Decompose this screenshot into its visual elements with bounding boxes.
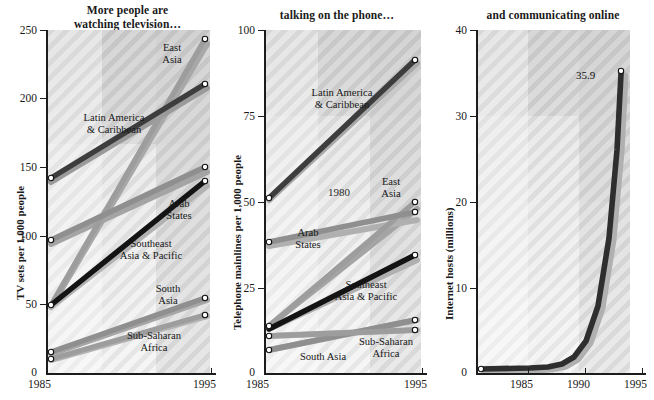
series-label-arab-states-tv: ArabStates [152,198,206,223]
xtick-tv-1995 [211,368,212,374]
yticklabel-tv-200: 200 [6,93,37,105]
yticklabel-phone-50: 50 [226,197,255,209]
xtick-phone-1995 [422,368,423,374]
inline-year-label-1980: 1980 [328,186,350,198]
ytick-tv-100 [40,236,47,237]
yticklabel-tv-0: 0 [6,367,37,379]
yticklabel-internet-40: 40 [438,25,467,37]
xtick-internet-1995 [642,368,643,374]
panel-internet: and communicating online Internet hosts … [434,0,654,400]
figure-root: More people are watching television… TV … [0,0,654,400]
series-label-south-asia-tv: SouthAsia [140,283,196,308]
yticklabel-tv-100: 100 [6,231,37,243]
yticklabel-phone-25: 25 [226,283,255,295]
panel-internet-ylabel: Internet hosts (millions) [443,208,455,320]
panel-telephone-ylabel: Telephone mainlines per 1,000 people [231,155,243,330]
yticklabel-internet-30: 30 [438,111,467,123]
yticklabel-phone-100: 100 [226,25,255,37]
yticklabel-tv-50: 50 [6,299,37,311]
series-label-latin-america-phone: Latin America& Caribbean [280,87,404,112]
panel-telephone-plot: Latin America& Caribbean EastAsia ArabSt… [266,30,421,373]
xticklabel-tv-1995: 1995 [193,379,216,391]
yticklabel-phone-0: 0 [226,367,255,379]
panel-television: More people are watching television… TV … [0,0,222,400]
panel-telephone-title: talking on the phone… [252,9,422,23]
datalabel-internet-35-9: 35.9 [576,69,595,81]
series-label-southeast-asia-tv: SoutheastAsia & Pacific [96,238,206,263]
xtick-internet-1990 [585,368,586,374]
panel-telephone-lines [266,30,421,373]
panel-television-y-axis [46,30,48,374]
series-label-sub-saharan-tv: Sub-SaharanAfrica [104,330,204,355]
series-label-sub-saharan-phone: Sub-SaharanAfrica [350,336,421,361]
series-label-south-asia-phone: South Asia [286,351,360,363]
ytick-phone-50 [258,202,265,203]
ytick-phone-25 [258,288,265,289]
ytick-tv-250 [40,30,47,31]
panel-telephone: talking on the phone… Telephone mainline… [222,0,434,400]
panel-television-title: More people are watching television… [40,4,215,31]
ytick-tv-200 [40,98,47,99]
ytick-internet-20 [470,202,477,203]
panel-internet-plot: 35.9 [478,30,630,373]
ytick-phone-100 [258,30,265,31]
panel-television-x-axis [46,373,216,375]
yticklabel-tv-250: 250 [6,25,37,37]
series-label-east-asia-tv: EastAsia [144,42,200,67]
panel-internet-x-axis [476,373,646,375]
panel-internet-line [478,30,630,373]
xticklabel-internet-1985: 1985 [510,379,533,391]
yticklabel-phone-75: 75 [226,111,255,123]
panel-television-ylabel: TV sets per 1,000 people [14,186,26,300]
series-label-latin-america-tv: Latin America& Caribbean [52,112,176,137]
series-label-arab-states-phone: ArabStates [280,227,336,252]
ytick-internet-10 [470,288,477,289]
ytick-tv-50 [40,304,47,305]
xticklabel-internet-1995: 1995 [624,379,647,391]
xticklabel-tv-1985: 1985 [28,379,51,391]
series-label-east-asia-phone: EastAsia [364,176,418,201]
ytick-internet-40 [470,30,477,31]
panel-telephone-x-axis [264,373,427,375]
xticklabel-phone-1985: 1985 [246,379,269,391]
yticklabel-internet-10: 10 [438,283,467,295]
yticklabel-internet-20: 20 [438,197,467,209]
ytick-internet-30 [470,116,477,117]
xticklabel-phone-1995: 1995 [404,379,427,391]
yticklabel-tv-150: 150 [6,162,37,174]
series-label-southeast-asia-phone: SoutheastAsia & Pacific [310,279,421,304]
xticklabel-internet-1990: 1990 [567,379,590,391]
panel-television-plot: EastAsia Latin America& Caribbean ArabSt… [48,30,210,373]
yticklabel-internet-0: 0 [438,367,467,379]
ytick-phone-75 [258,116,265,117]
ytick-tv-150 [40,167,47,168]
panel-internet-title: and communicating online [462,9,644,23]
xtick-internet-1985 [528,368,529,374]
